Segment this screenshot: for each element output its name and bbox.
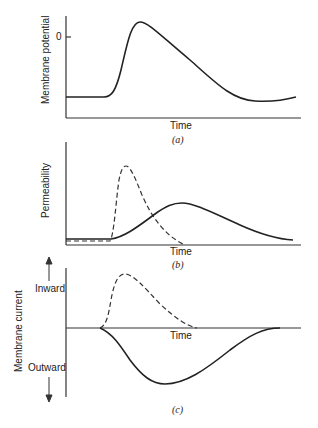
outward-label: Outward	[28, 362, 66, 373]
panel-b-ylabel: Permeability	[40, 163, 51, 218]
inward-label: Inward	[35, 283, 65, 294]
panel-b-xlabel: Time	[170, 246, 192, 257]
panel-b-caption: (b)	[172, 259, 184, 270]
outward-arrow-icon	[46, 377, 52, 402]
panel-a-ylabel: Membrane potential	[40, 16, 51, 104]
panel-b-axes	[66, 142, 301, 245]
panel-a-caption: (a)	[172, 134, 184, 145]
panel-c-ylabel: Membrane current	[13, 290, 24, 372]
panel-c-caption: (c)	[172, 404, 183, 415]
panel-a-zero-tick: 0	[56, 31, 62, 42]
panel-a-axes	[66, 16, 301, 118]
panel-b-dashed-curve	[66, 166, 183, 244]
panel-c-dashed-curve	[100, 274, 197, 328]
panel-a-xlabel: Time	[170, 120, 192, 131]
inward-arrow-icon	[46, 257, 52, 281]
panel-c-xlabel: Time	[170, 330, 192, 341]
panel-b-solid-curve	[66, 203, 293, 240]
panel-a-potential-curve	[66, 22, 296, 101]
